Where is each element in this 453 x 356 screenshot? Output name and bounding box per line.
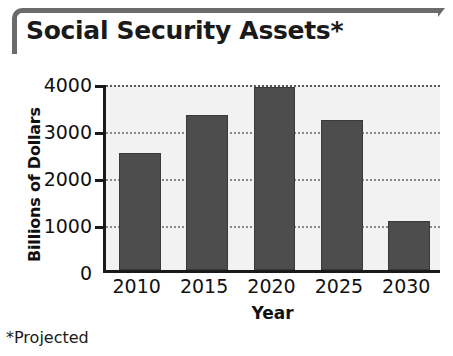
x-tick-label-2020: 2020 — [238, 277, 305, 296]
y-tick-1000 — [95, 226, 106, 229]
y-tick-label-0: 0 — [22, 264, 92, 283]
bar-2010 — [119, 153, 161, 271]
y-tick-label-3000: 3000 — [22, 123, 92, 142]
y-tick-4000 — [95, 85, 106, 88]
bar-2020 — [254, 87, 296, 270]
y-tick-label-1000: 1000 — [22, 217, 92, 236]
x-tick-label-2015: 2015 — [170, 277, 237, 296]
footnote: *Projected — [6, 328, 89, 347]
bar-series — [106, 85, 440, 270]
y-tick-label-2000: 2000 — [22, 170, 92, 189]
x-tick-label-2025: 2025 — [305, 277, 372, 296]
y-axis-tick-labels: 40003000200010000 — [22, 85, 92, 273]
x-tick-label-2010: 2010 — [103, 277, 170, 296]
plot-frame — [103, 85, 440, 273]
bar-2025 — [321, 120, 363, 270]
y-tick-3000 — [95, 132, 106, 135]
bar-2015 — [186, 115, 228, 270]
x-axis-title: Year — [105, 303, 440, 323]
y-tick-2000 — [95, 179, 106, 182]
bar-2030 — [388, 221, 430, 270]
y-tick-label-4000: 4000 — [22, 76, 92, 95]
x-tick-label-2030: 2030 — [373, 277, 440, 296]
chart-title: Social Security Assets* — [26, 16, 343, 45]
title-banner: Social Security Assets* — [12, 8, 440, 56]
plot-area — [103, 85, 440, 273]
x-axis-tick-labels: 20102015202020252030 — [103, 277, 440, 301]
